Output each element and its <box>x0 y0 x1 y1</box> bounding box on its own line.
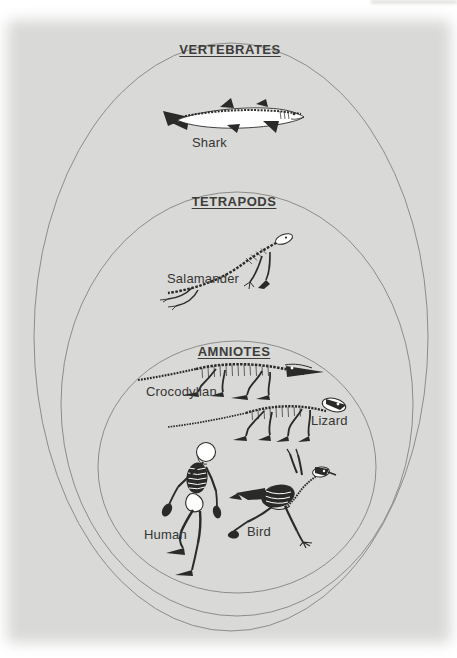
crocodylian-label: Crocodylian <box>146 384 217 399</box>
nested-ellipse-diagram <box>0 0 457 658</box>
vertebrates-heading: VERTEBRATES <box>179 42 280 57</box>
salamander-label: Salamander <box>167 271 239 286</box>
bird-illustration <box>228 449 336 548</box>
amniotes-heading: AMNIOTES <box>198 344 271 359</box>
bird-label: Bird <box>247 524 271 539</box>
tetrapods-ellipse <box>61 192 413 616</box>
lizard-label: Lizard <box>311 413 348 428</box>
figure-canvas: VERTEBRATES TETRAPODS AMNIOTES Shark Sal… <box>0 0 457 658</box>
human-label: Human <box>144 527 187 542</box>
shark-illustration <box>163 98 304 133</box>
human-illustration <box>160 443 223 577</box>
tetrapods-heading: TETRAPODS <box>192 194 277 209</box>
amniotes-ellipse <box>98 341 376 593</box>
shark-label: Shark <box>192 135 227 150</box>
vertebrates-ellipse <box>34 43 428 631</box>
